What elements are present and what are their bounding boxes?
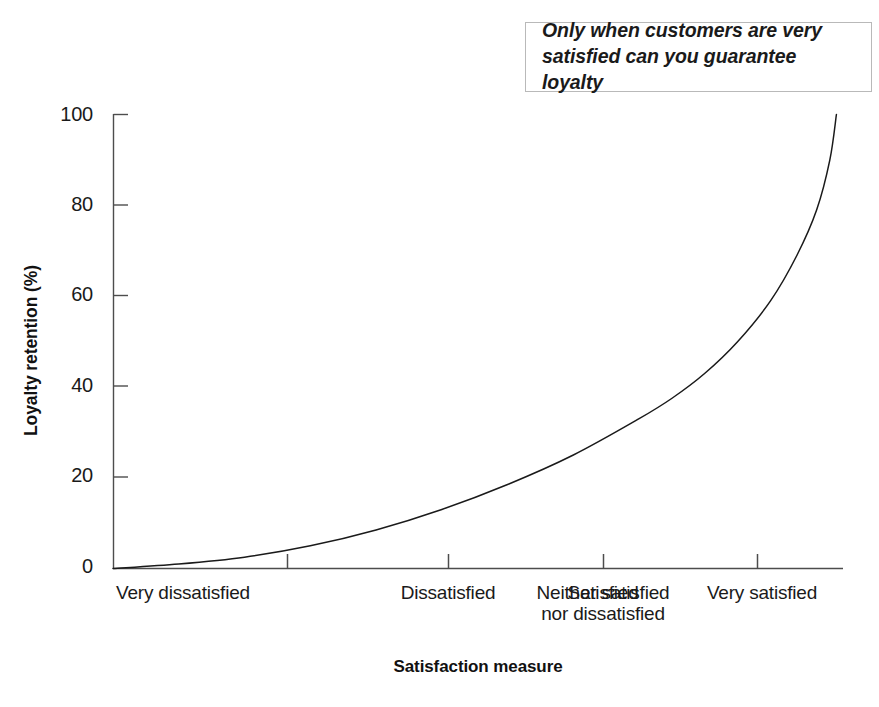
x-axis-title: Satisfaction measure [113, 657, 843, 677]
y-tick-label-100: 100 [33, 103, 93, 126]
x-tick-label-very-satisfied: Very satisfied [667, 582, 857, 603]
x-tick-label-satisfied: Satisfied [523, 582, 683, 603]
y-tick-label-0: 0 [33, 555, 93, 578]
y-axis-title: Loyalty retention (%) [21, 236, 42, 466]
annotation-callout-text: Only when customers are very satisfied c… [542, 18, 857, 96]
y-tick-label-40: 40 [33, 374, 93, 397]
y-tick-label-20: 20 [33, 464, 93, 487]
chart-figure: Only when customers are very satisfied c… [0, 0, 879, 707]
x-tick-label-very-dissatisfied: Very dissatisfied [53, 582, 313, 603]
y-tick-label-80: 80 [33, 193, 93, 216]
y-axis-ticks [114, 115, 129, 478]
data-series-line-loyalty-retention [113, 115, 836, 569]
y-tick-label-60: 60 [33, 283, 93, 306]
annotation-callout-box: Only when customers are very satisfied c… [525, 22, 872, 92]
x-axis-ticks [288, 554, 758, 569]
